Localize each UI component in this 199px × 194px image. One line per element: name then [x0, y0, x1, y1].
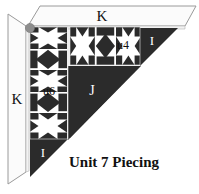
label-i-right: I	[150, 33, 154, 48]
label-u6: u6	[43, 84, 55, 98]
pieced-strip-u6	[29, 27, 68, 139]
label-u4: u4	[117, 38, 129, 52]
label-k-top: K	[97, 8, 108, 24]
unit-7-piecing-diagram: K K J I I u6 u4 Unit 7 Piecing	[0, 0, 199, 194]
figure-canvas: K K J I I u6 u4 Unit 7 Piecing	[0, 0, 199, 194]
corner-pivot-dot	[25, 23, 34, 32]
border-strip-k-top	[28, 6, 196, 29]
label-k-left: K	[12, 91, 23, 107]
figure-caption: Unit 7 Piecing	[69, 154, 159, 170]
pieced-strip-u4	[70, 27, 141, 65]
label-i-bottom: I	[41, 145, 45, 160]
label-j: J	[89, 83, 95, 98]
